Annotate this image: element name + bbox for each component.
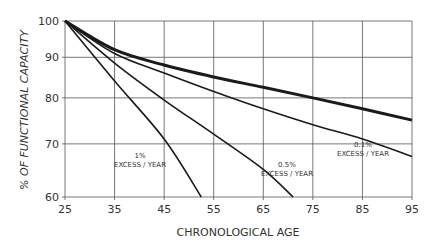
series-line [65,21,412,120]
series-line [65,21,293,197]
x-tick-label: 75 [306,203,320,216]
series-lines [65,21,412,197]
annotation-label: EXCESS / YEAR [337,150,389,158]
annotation-label: EXCESS / YEAR [114,161,166,169]
annotation-rate: 0.1% [354,141,372,149]
y-axis-label: % OF FUNCTIONAL CAPACITY [18,29,31,190]
annotation-label: EXCESS / YEAR [261,170,313,178]
y-tick-label: 60 [45,191,59,204]
annotation-rate: 0.5% [278,161,296,169]
x-tick-label: 45 [157,203,171,216]
series-line [65,21,201,197]
x-tick-label: 55 [207,203,221,216]
x-tick-label: 25 [58,203,72,216]
y-tick-label: 90 [45,51,59,64]
x-tick-label: 95 [405,203,419,216]
x-tick-label: 35 [108,203,122,216]
y-tick-label: 80 [45,92,59,105]
series-line [65,21,412,156]
annotations: 1%EXCESS / YEAR0.5%EXCESS / YEAR0.1%EXCE… [114,141,389,178]
grid [62,21,412,200]
x-tick-label: 65 [256,203,270,216]
y-tick-label: 70 [45,138,59,151]
functional-capacity-chart: 253545556575859560708090100 1%EXCESS / Y… [0,0,434,246]
tick-labels: 253545556575859560708090100 [38,15,419,216]
y-tick-label: 100 [38,15,59,28]
x-axis-label: CHRONOLOGICAL AGE [177,226,300,239]
annotation-rate: 1% [134,152,145,160]
x-tick-label: 85 [355,203,369,216]
